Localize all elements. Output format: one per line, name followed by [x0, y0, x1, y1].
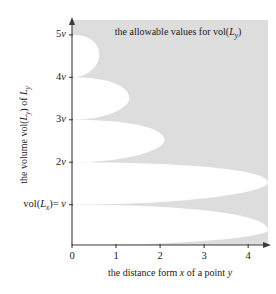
- y-tick-label-5v: 5v: [56, 29, 66, 40]
- xlabel-italic-y: y: [227, 267, 233, 278]
- y-tick-label-2v: 2v: [56, 156, 66, 167]
- shaded-allowable-region: [72, 20, 268, 245]
- ylabel-b: ) of: [18, 95, 30, 112]
- y-tick-label-volLxv: vol(Lx)= v: [23, 199, 66, 212]
- x-tick-label-4: 4: [246, 250, 252, 261]
- y-tick-label-3v: 3v: [56, 114, 66, 125]
- allowable-volume-chart: the allowable values for vol(Ly) 5v4v3v2…: [0, 0, 276, 294]
- y-tick-label-4v: 4v: [56, 71, 66, 82]
- ylabel-a: the volume vol(: [18, 120, 30, 184]
- ylabel-sub2: y: [24, 85, 32, 90]
- x-tick-label-1: 1: [113, 250, 118, 261]
- annotation-close: ): [238, 26, 241, 38]
- y-tick-group: 5v4v3v2vvol(Lx)= v: [23, 29, 73, 211]
- x-axis-title: the distance form x of a point y: [108, 267, 233, 278]
- xlabel-a: the distance form: [108, 267, 180, 278]
- x-tick-label-2: 2: [157, 250, 162, 261]
- y-axis-title: the volume vol(Ly) of Ly: [18, 85, 32, 183]
- x-tick-label-3: 3: [202, 250, 207, 261]
- x-tick-group: 01234: [69, 244, 251, 261]
- xlabel-b: of a point: [184, 267, 227, 278]
- x-tick-label-0: 0: [69, 250, 74, 261]
- annotation-lead: the allowable values for vol(: [115, 26, 230, 38]
